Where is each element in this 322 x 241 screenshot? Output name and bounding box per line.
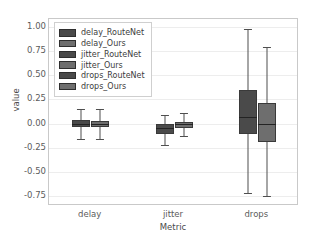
box-rect [239,90,257,134]
boxplot-figure: value 1.000.750.500.250.00-0.25-0.50-0.7… [0,0,322,241]
median-line [156,128,174,129]
y-tick-label: 0.25 [0,93,52,103]
box-plot-drops_Ours [258,19,276,206]
whisker-cap-lower [244,193,252,194]
x-tick-label: drops [244,209,268,219]
whisker-cap-upper [160,115,168,116]
legend-item[interactable]: delay_RouteNet [59,28,145,38]
whisker-cap-upper [263,47,271,48]
legend-label: drops_RouteNet [81,71,145,80]
legend-swatch-icon [59,51,76,59]
legend-item[interactable]: drops_Ours [59,82,145,92]
legend-item[interactable]: drops_RouteNet [59,71,145,81]
chart-legend: delay_RouteNetdelay_Oursjitter_RouteNetj… [54,22,152,97]
median-line [91,124,109,125]
legend-label: drops_Ours [81,82,126,91]
y-tick-label: 0.50 [0,69,52,79]
y-tick-label: 1.00 [0,21,52,31]
legend-swatch-icon [59,29,76,37]
y-tick-label: 0.00 [0,118,52,128]
box-plot-jitter_RouteNet [156,19,174,206]
x-tick-label: jitter [163,209,183,219]
whisker-cap-lower [96,139,104,140]
y-tick-label: -0.75 [0,190,52,200]
whisker-cap-upper [179,113,187,114]
whisker-cap-upper [96,109,104,110]
median-line [239,117,257,118]
x-tick-label: delay [78,209,101,219]
legend-swatch-icon [59,83,76,91]
legend-item[interactable]: jitter_RouteNet [59,50,145,60]
legend-swatch-icon [59,72,76,80]
median-line [72,124,90,125]
whisker-cap-lower [160,145,168,146]
legend-label: jitter_RouteNet [81,50,141,59]
legend-item[interactable]: delay_Ours [59,39,145,49]
legend-swatch-icon [59,61,76,69]
whisker-cap-lower [179,136,187,137]
y-tick-label: -0.50 [0,166,52,176]
box-plot-drops_RouteNet [239,19,257,206]
whisker-cap-lower [77,139,85,140]
median-line [175,124,193,125]
legend-label: delay_RouteNet [81,28,144,37]
y-tick-label: 0.75 [0,45,52,55]
legend-label: delay_Ours [81,39,126,48]
legend-label: jitter_Ours [81,61,123,70]
whisker-cap-upper [77,109,85,110]
box-plot-jitter_Ours [175,19,193,206]
x-axis-label: Metric [48,222,298,232]
y-tick-label: -0.25 [0,142,52,152]
whisker-cap-lower [263,196,271,197]
legend-item[interactable]: jitter_Ours [59,60,145,70]
median-line [258,124,276,125]
legend-swatch-icon [59,40,76,48]
whisker-cap-upper [244,29,252,30]
